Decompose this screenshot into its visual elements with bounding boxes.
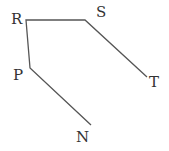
label-s: S (96, 3, 106, 21)
label-n: N (76, 128, 89, 146)
label-p: P (13, 66, 23, 84)
diagram-canvas: R S P T N (0, 0, 169, 151)
path-n-p-r-s-t (26, 20, 147, 125)
label-r: R (11, 10, 23, 28)
label-t: T (149, 73, 159, 91)
